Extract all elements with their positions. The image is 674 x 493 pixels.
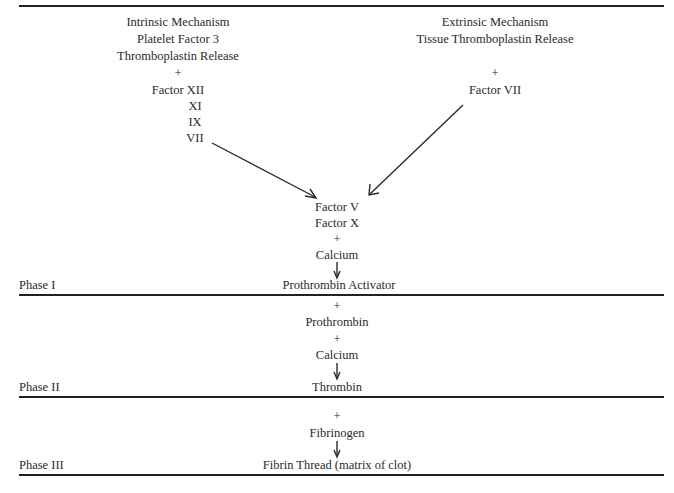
phase1-plus: + [333,232,340,247]
phase2-plus-2: + [333,332,340,347]
phase1-calcium: Calcium [316,248,358,263]
phase2-prothrombin: Prothrombin [305,315,368,330]
extrinsic-arrow-icon [369,105,463,195]
phase2-plus-1: + [333,299,340,314]
phase1-factor-v: Factor V [315,200,359,215]
phase3-plus: + [333,409,340,424]
phase2-down-arrow-icon [334,363,340,379]
phase3-rule [19,474,664,476]
phase2-product: Thrombin [312,380,362,395]
phase1-rule [19,294,664,296]
phase1-factor-x: Factor X [315,216,359,231]
phase2-calcium: Calcium [316,348,358,363]
phase2-rule [19,396,664,398]
phase1-product: Prothrombin Activator [283,278,396,293]
phase3-fibrinogen: Fibrinogen [310,426,365,441]
phase3-down-arrow-icon [334,441,340,457]
phase1-down-arrow-icon [334,262,340,278]
intrinsic-arrow-icon [212,143,316,198]
phase2-label: Phase II [19,380,60,395]
phase1-label: Phase I [19,278,55,293]
phase3-label: Phase III [19,458,64,473]
phase3-product: Fibrin Thread (matrix of clot) [263,458,411,473]
